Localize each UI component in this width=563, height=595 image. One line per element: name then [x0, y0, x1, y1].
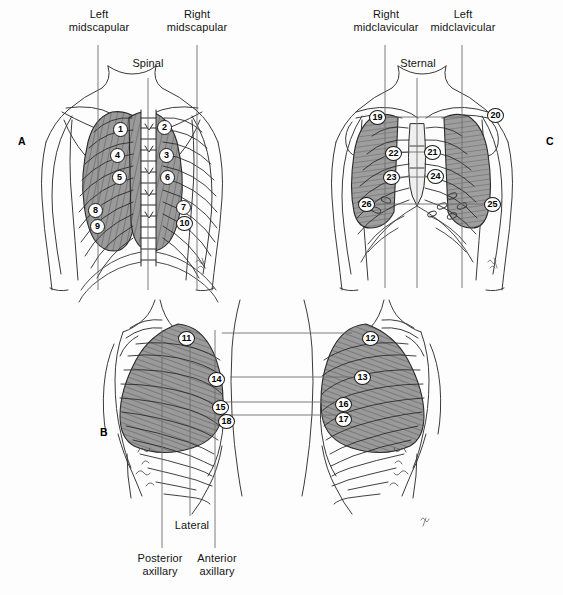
auscultation-site-26[interactable]: 26: [358, 197, 375, 212]
auscultation-site-9[interactable]: 9: [90, 219, 105, 234]
label-spinal: Spinal: [125, 57, 171, 70]
label-posterior-axillary: Posterior axillary: [128, 552, 192, 577]
panel-b-left-free-ribs: [136, 448, 154, 486]
auscultation-site-22[interactable]: 22: [385, 146, 402, 161]
panel-b-right-free-ribs: [390, 448, 408, 486]
auscultation-site-8[interactable]: 8: [88, 203, 103, 218]
label-lateral: Lateral: [169, 519, 215, 532]
auscultation-site-13[interactable]: 13: [354, 370, 371, 385]
label-left-midclavicular: Left midclavicular: [428, 8, 498, 33]
auscultation-site-25[interactable]: 25: [484, 197, 501, 212]
auscultation-site-12[interactable]: 12: [362, 331, 379, 346]
auscultation-site-4[interactable]: 4: [110, 148, 125, 163]
auscultation-site-2[interactable]: 2: [157, 120, 172, 135]
label-right-midclavicular: Right midclavicular: [351, 8, 421, 33]
auscultation-site-14[interactable]: 14: [208, 372, 225, 387]
auscultation-site-7[interactable]: 7: [176, 200, 191, 215]
auscultation-site-10[interactable]: 10: [176, 216, 193, 231]
anatomy-illustration: [0, 0, 563, 595]
auscultation-site-18[interactable]: 18: [218, 414, 235, 429]
panel-a-spine: [141, 110, 156, 266]
auscultation-site-23[interactable]: 23: [383, 170, 400, 185]
label-right-midscapular: Right midscapular: [166, 8, 228, 33]
auscultation-site-17[interactable]: 17: [335, 412, 352, 427]
label-anterior-axillary: Anterior axillary: [186, 552, 248, 577]
chest-auscultation-figure: Left midscapularSpinalRight midscapularL…: [0, 0, 563, 595]
auscultation-site-24[interactable]: 24: [427, 169, 444, 184]
auscultation-site-19[interactable]: 19: [369, 110, 386, 125]
auscultation-site-15[interactable]: 15: [212, 400, 229, 415]
auscultation-site-11[interactable]: 11: [178, 331, 195, 346]
auscultation-site-3[interactable]: 3: [159, 148, 174, 163]
auscultation-site-16[interactable]: 16: [335, 397, 352, 412]
label-left-midscapular: Left midscapular: [68, 8, 130, 33]
auscultation-site-21[interactable]: 21: [424, 145, 441, 160]
auscultation-site-5[interactable]: 5: [112, 170, 127, 185]
panel-letter-a: A: [18, 135, 26, 147]
label-sternal: Sternal: [394, 57, 442, 70]
auscultation-site-20[interactable]: 20: [487, 108, 504, 123]
panel-letter-c: C: [546, 135, 554, 147]
auscultation-site-1[interactable]: 1: [113, 122, 128, 137]
panel-letter-b: B: [100, 426, 108, 438]
auscultation-site-6[interactable]: 6: [160, 170, 175, 185]
panel-b-signature: [421, 518, 429, 526]
